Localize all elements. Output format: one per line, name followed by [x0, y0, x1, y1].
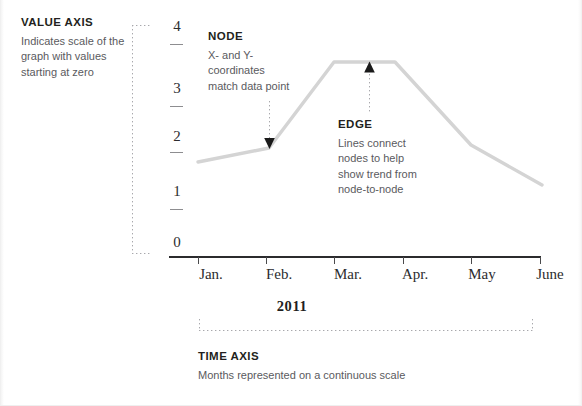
edge-pointer-guide	[364, 62, 375, 113]
y-tick-label-4: 4	[166, 18, 188, 35]
y-tick-label-0: 0	[166, 234, 188, 251]
x-tick-mark-mar	[334, 257, 335, 264]
y-tick-rule-4	[170, 44, 183, 45]
y-tick-rule-3	[170, 106, 183, 107]
value-axis-bracket	[132, 25, 151, 254]
y-tick-label-2: 2	[166, 128, 188, 145]
x-tick-label-apr: Apr.	[387, 266, 443, 283]
x-axis-line	[169, 256, 541, 258]
x-tick-mark-june	[540, 257, 541, 264]
x-tick-label-june: June	[522, 266, 578, 283]
time-axis-bracket	[199, 319, 533, 331]
x-tick-label-mar: Mar.	[320, 266, 376, 283]
x-axis-year-label: 2011	[1, 298, 582, 315]
y-tick-label-3: 3	[166, 80, 188, 97]
y-tick-label-1: 1	[166, 183, 188, 200]
chart-vector-layer	[1, 0, 582, 406]
x-tick-mark-may	[471, 257, 472, 264]
series-line-trend	[198, 62, 542, 185]
infographic-canvas: VALUE AXIS Indicates scale of the graph …	[0, 0, 582, 406]
x-tick-label-jan: Jan.	[183, 266, 239, 283]
x-tick-mark-feb	[266, 257, 267, 264]
x-tick-label-feb: Feb.	[251, 266, 307, 283]
x-tick-mark-apr	[403, 257, 404, 264]
x-tick-label-may: May	[454, 266, 510, 283]
x-tick-mark-jan	[198, 257, 199, 264]
y-tick-rule-2	[170, 152, 183, 153]
line-chart: 4 3 2 1 0 Jan. Feb. Mar. Apr. May June 2…	[1, 0, 582, 406]
y-tick-rule-1	[170, 209, 183, 210]
